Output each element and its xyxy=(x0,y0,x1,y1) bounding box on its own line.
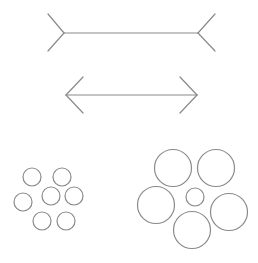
line-fin xyxy=(66,95,83,113)
surrounding-circle xyxy=(65,187,83,205)
surrounding-circle xyxy=(155,150,192,187)
ebbinghaus-left-group xyxy=(14,168,83,230)
line-fin xyxy=(180,77,197,95)
line-fin xyxy=(198,14,215,33)
surrounding-circle xyxy=(174,212,211,249)
surrounding-circle xyxy=(23,168,41,186)
muller-lyer-bottom-line xyxy=(66,77,197,113)
surrounding-circle xyxy=(211,194,248,231)
surrounding-circle xyxy=(57,212,75,230)
center-circle xyxy=(42,187,60,205)
line-fin xyxy=(180,95,197,113)
muller-lyer-top-line xyxy=(48,14,215,51)
surrounding-circle xyxy=(53,168,71,186)
surrounding-circle xyxy=(138,187,175,224)
line-fin xyxy=(48,33,64,51)
line-fin xyxy=(66,77,83,95)
surrounding-circle xyxy=(198,150,235,187)
illusion-diagram xyxy=(0,0,258,263)
surrounding-circle xyxy=(14,193,32,211)
center-circle xyxy=(186,188,204,206)
line-fin xyxy=(198,33,215,51)
ebbinghaus-right-group xyxy=(138,150,248,249)
surrounding-circle xyxy=(33,212,51,230)
line-fin xyxy=(48,14,64,33)
